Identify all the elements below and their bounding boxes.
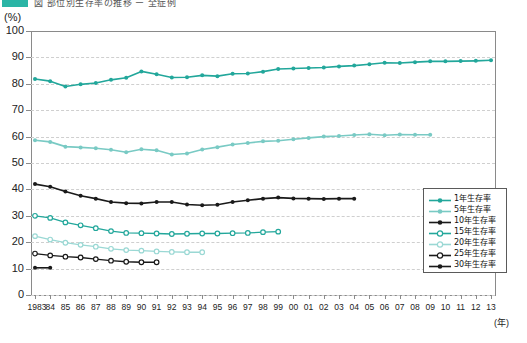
x-axis-tick [415, 295, 416, 299]
legend-label: 20年生存率 [454, 236, 496, 247]
x-axis-label: 11 [454, 302, 468, 312]
y-axis-label: 60 [0, 131, 24, 141]
data-point [109, 200, 113, 204]
series-15年生存率 [33, 214, 281, 237]
data-point [428, 59, 432, 63]
data-point [322, 65, 326, 69]
x-axis-label: 01 [302, 302, 316, 312]
data-point [246, 198, 250, 202]
data-point [124, 231, 129, 236]
x-axis-label: 91 [150, 302, 164, 312]
data-point [170, 232, 175, 237]
data-point [109, 148, 113, 152]
x-axis-tick [400, 295, 401, 299]
legend-marker-icon [428, 236, 452, 247]
x-axis-label: 92 [165, 302, 179, 312]
data-point [322, 135, 326, 139]
data-point [185, 250, 190, 255]
data-point [261, 230, 266, 235]
series-line [35, 236, 202, 252]
data-point [124, 150, 128, 154]
header-color-swatch [2, 0, 28, 7]
x-axis-label: 86 [74, 302, 88, 312]
x-axis-tick [324, 295, 325, 299]
x-axis-label: 10 [438, 302, 452, 312]
data-point [33, 138, 37, 142]
data-point [63, 145, 67, 149]
data-point [215, 145, 219, 149]
data-point [78, 255, 83, 260]
x-axis-label: 99 [271, 302, 285, 312]
data-point [33, 77, 37, 81]
x-axis-label: 95 [210, 302, 224, 312]
data-point [109, 247, 114, 252]
data-point [307, 136, 311, 140]
data-point [63, 220, 68, 225]
x-axis-label: 85 [58, 302, 72, 312]
x-axis-tick [248, 295, 249, 299]
x-axis-tick [491, 295, 492, 299]
data-point [109, 229, 114, 234]
x-axis-tick [157, 295, 158, 299]
data-point [185, 152, 189, 156]
legend-label: 30年生存率 [454, 258, 496, 269]
data-point [276, 196, 280, 200]
y-axis-label: 70 [0, 104, 24, 114]
x-axis-tick [369, 295, 370, 299]
data-point [291, 137, 295, 141]
x-axis-label: 00 [286, 302, 300, 312]
data-point [124, 259, 129, 264]
legend-item: 15年生存率 [428, 225, 502, 236]
data-point [246, 231, 251, 236]
data-point [352, 64, 356, 68]
data-point [33, 234, 38, 239]
data-point [33, 182, 37, 186]
data-point [33, 266, 37, 270]
x-axis-tick [461, 295, 462, 299]
data-point [139, 248, 144, 253]
data-point [33, 214, 38, 219]
data-point [352, 133, 356, 137]
x-axis-tick [65, 295, 66, 299]
header-caption: 図 部位別生存率の推移 ー 全症例 [34, 0, 176, 9]
data-point [185, 231, 190, 236]
data-point [276, 229, 281, 234]
data-point [154, 231, 159, 236]
x-axis-label: 03 [332, 302, 346, 312]
x-axis-label: 93 [180, 302, 194, 312]
data-point [139, 69, 143, 73]
x-axis-tick [35, 295, 36, 299]
x-axis-label: 04 [347, 302, 361, 312]
x-axis-tick [354, 295, 355, 299]
data-point [230, 231, 235, 236]
x-axis-label: 09 [423, 302, 437, 312]
legend-marker-icon [428, 192, 452, 203]
data-point [383, 133, 387, 137]
x-axis-label: 94 [195, 302, 209, 312]
x-axis-label: 84 [43, 302, 57, 312]
y-axis-tick [26, 295, 31, 296]
legend-item: 1年生存率 [428, 192, 502, 203]
series-line [35, 184, 354, 205]
data-point [139, 231, 144, 236]
data-point [155, 72, 159, 76]
x-axis-label: 97 [241, 302, 255, 312]
data-point [124, 201, 128, 205]
data-point [200, 73, 204, 77]
cropped-header-strip: 図 部位別生存率の推移 ー 全症例 [0, 0, 527, 9]
y-axis-label: 80 [0, 78, 24, 88]
data-point [291, 196, 295, 200]
data-point [48, 237, 53, 242]
data-point [48, 253, 53, 258]
legend-marker-icon [428, 247, 452, 258]
x-axis-tick [278, 295, 279, 299]
data-point [170, 153, 174, 157]
data-point [200, 231, 205, 236]
data-point [79, 82, 83, 86]
data-point [474, 59, 478, 63]
data-point [63, 190, 67, 194]
x-axis-label: 08 [408, 302, 422, 312]
data-point [48, 140, 52, 144]
data-point [124, 76, 128, 80]
legend-item: 20年生存率 [428, 236, 502, 247]
